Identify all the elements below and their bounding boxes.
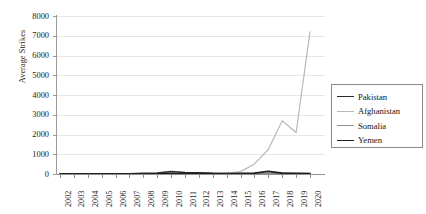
legend-label: Somalia bbox=[358, 121, 386, 131]
chart-figure: Average Strikes 800070006000500040003000… bbox=[0, 0, 426, 214]
x-tick-label: 2020 bbox=[314, 191, 323, 207]
x-tick-label: 2013 bbox=[216, 191, 225, 207]
x-tick-mark bbox=[254, 175, 255, 178]
x-tick-label: 2008 bbox=[147, 191, 156, 207]
legend-item-afghanistan[interactable]: Afghanistan bbox=[337, 104, 400, 119]
x-tick-mark bbox=[241, 175, 242, 178]
x-tick-label: 2006 bbox=[119, 191, 128, 207]
x-tick-label: 2007 bbox=[133, 191, 142, 207]
legend-label: Yemen bbox=[358, 135, 382, 145]
y-tick-label: 5000 bbox=[32, 71, 49, 80]
x-tick-mark bbox=[310, 175, 311, 178]
x-axis-tick-labels: 2002200320042005200620072008200920102011… bbox=[0, 175, 426, 214]
y-tick-label: 6000 bbox=[32, 51, 49, 60]
x-tick-mark bbox=[185, 175, 186, 178]
x-tick-mark bbox=[213, 175, 214, 178]
x-tick-mark bbox=[102, 175, 103, 178]
legend-swatch-icon bbox=[337, 140, 354, 141]
legend-item-yemen[interactable]: Yemen bbox=[337, 133, 382, 148]
legend-label: Pakistan bbox=[358, 92, 387, 102]
series-lines bbox=[57, 16, 325, 174]
legend-item-somalia[interactable]: Somalia bbox=[337, 118, 386, 133]
legend-swatch-icon bbox=[337, 96, 354, 97]
y-tick-label: 1000 bbox=[32, 150, 49, 159]
x-tick-mark bbox=[116, 175, 117, 178]
x-tick-label: 2009 bbox=[161, 191, 170, 207]
x-tick-mark bbox=[171, 175, 172, 178]
x-tick-mark bbox=[60, 175, 61, 178]
x-tick-label: 2018 bbox=[286, 191, 295, 207]
x-tick-mark bbox=[227, 175, 228, 178]
legend-item-pakistan[interactable]: Pakistan bbox=[337, 89, 387, 104]
legend-label: Afghanistan bbox=[358, 106, 400, 116]
x-tick-mark bbox=[282, 175, 283, 178]
x-tick-label: 2014 bbox=[230, 191, 239, 207]
x-tick-label: 2016 bbox=[258, 191, 267, 207]
x-tick-label: 2019 bbox=[300, 191, 309, 207]
chart-legend: PakistanAfghanistanSomaliaYemen bbox=[331, 84, 423, 148]
y-tick-label: 8000 bbox=[32, 12, 49, 21]
x-tick-label: 2015 bbox=[244, 191, 253, 207]
x-tick-mark bbox=[199, 175, 200, 178]
y-tick-label: 2000 bbox=[32, 130, 49, 139]
x-tick-mark bbox=[157, 175, 158, 178]
x-tick-mark bbox=[129, 175, 130, 178]
x-tick-label: 2010 bbox=[175, 191, 184, 207]
legend-swatch-icon bbox=[337, 111, 354, 112]
x-tick-label: 2003 bbox=[77, 191, 86, 207]
x-tick-mark bbox=[268, 175, 269, 178]
series-line-afghanistan bbox=[60, 32, 310, 174]
y-tick-label: 3000 bbox=[32, 110, 49, 119]
x-tick-label: 2017 bbox=[272, 191, 281, 207]
x-tick-label: 2002 bbox=[64, 191, 73, 207]
legend-swatch-icon bbox=[337, 125, 354, 126]
y-tick-label: 4000 bbox=[32, 91, 49, 100]
x-tick-label: 2012 bbox=[202, 191, 211, 207]
x-tick-mark bbox=[143, 175, 144, 178]
x-tick-label: 2005 bbox=[105, 191, 114, 207]
x-tick-label: 2011 bbox=[189, 191, 198, 207]
y-tick-label: 7000 bbox=[32, 31, 49, 40]
x-tick-mark bbox=[296, 175, 297, 178]
x-tick-mark bbox=[88, 175, 89, 178]
x-tick-label: 2004 bbox=[91, 191, 100, 207]
plot-area bbox=[57, 16, 325, 174]
x-tick-mark bbox=[74, 175, 75, 178]
